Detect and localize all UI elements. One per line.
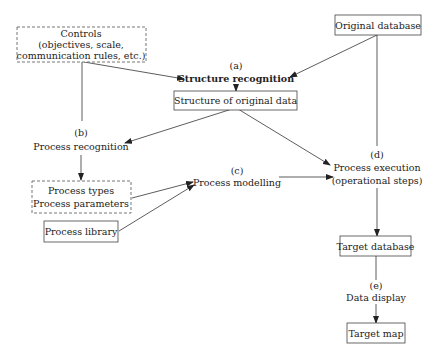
node-target-map: Target map xyxy=(347,323,405,343)
edge-structure-data-process-recognition xyxy=(125,109,232,143)
edge-controls-structure-recognition xyxy=(84,62,184,79)
node-target-database: Target database xyxy=(337,236,415,256)
edge-original-db-structure-recognition xyxy=(290,35,377,77)
structure-recognition-tag: (a) xyxy=(229,60,242,71)
process-types-line-2: Process parameters xyxy=(33,198,129,209)
node-process-execution: (d) Process execution (operational steps… xyxy=(332,149,423,186)
process-recognition-tag: (b) xyxy=(74,127,88,138)
data-display-tag: (e) xyxy=(369,280,382,291)
node-process-recognition: (b) Process recognition xyxy=(33,127,129,152)
process-modelling-label: Process modelling xyxy=(193,177,281,188)
structure-of-original-data-label: Structure of original data xyxy=(174,95,298,106)
edge-structure-data-process-execution xyxy=(238,109,330,165)
data-display-label: Data display xyxy=(346,292,407,303)
node-controls: Controls (objectives, scale, communicati… xyxy=(17,27,146,62)
controls-line-2: (objectives, scale, xyxy=(38,39,124,50)
node-structure-recognition: (a) Structure recognition xyxy=(178,60,294,84)
controls-line-1: Controls xyxy=(60,28,101,39)
process-execution-tag: (d) xyxy=(370,149,384,160)
node-structure-of-original-data: Structure of original data xyxy=(174,91,298,110)
original-database-label: Original database xyxy=(335,20,421,31)
flow-diagram: Controls (objectives, scale, communicati… xyxy=(0,0,436,356)
node-process-library: Process library xyxy=(44,221,118,242)
target-map-label: Target map xyxy=(348,328,403,339)
process-recognition-label: Process recognition xyxy=(33,141,129,152)
process-execution-line-2: (operational steps) xyxy=(332,175,423,186)
node-original-database: Original database xyxy=(335,15,421,35)
structure-recognition-label: Structure recognition xyxy=(178,73,294,84)
node-process-types: Process types Process parameters xyxy=(32,181,131,213)
node-process-modelling: (c) Process modelling xyxy=(193,165,281,188)
process-modelling-tag: (c) xyxy=(231,165,244,176)
edge-process-types-process-modelling xyxy=(132,182,193,198)
target-database-label: Target database xyxy=(337,241,415,252)
process-execution-line-1: Process execution xyxy=(333,162,420,173)
process-types-line-1: Process types xyxy=(48,185,114,196)
controls-line-3: communication rules, etc.) xyxy=(17,50,146,61)
process-library-label: Process library xyxy=(45,226,118,237)
node-data-display: (e) Data display xyxy=(346,280,407,303)
